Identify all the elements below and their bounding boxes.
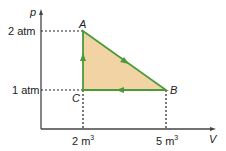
x-tick-2m3: 2 m3 (72, 134, 94, 147)
pv-diagram (0, 0, 226, 151)
y-tick-2atm: 2 atm (8, 26, 36, 37)
y-axis-arrow-icon (39, 9, 43, 15)
point-a-label: A (79, 19, 86, 30)
x-axis-label: V (209, 134, 216, 145)
y-tick-1atm: 1 atm (12, 85, 40, 96)
y-axis-label: p (30, 7, 36, 18)
x-tick-5m3: 5 m3 (156, 134, 178, 147)
point-c-label: C (72, 93, 80, 104)
point-b-label: B (170, 85, 177, 96)
x-axis-arrow-icon (210, 127, 216, 131)
